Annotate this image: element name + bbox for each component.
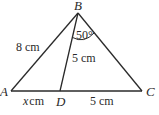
triangle-diagram: B A C D 8 cm 50° 5 cm xcm 5 cm <box>0 0 159 115</box>
label-ab-length: 8 cm <box>16 40 40 54</box>
label-angle-dbc: 50° <box>76 28 93 42</box>
point-label-d: D <box>55 94 66 109</box>
label-bd-length: 5 cm <box>72 51 96 65</box>
point-label-b: B <box>74 0 82 13</box>
point-label-c: C <box>146 84 155 99</box>
variable-x: x <box>22 94 29 108</box>
label-dc-length: 5 cm <box>90 94 114 108</box>
unit-cm: cm <box>29 94 44 108</box>
point-label-a: A <box>0 84 8 99</box>
label-ad-length: xcm <box>22 94 45 108</box>
